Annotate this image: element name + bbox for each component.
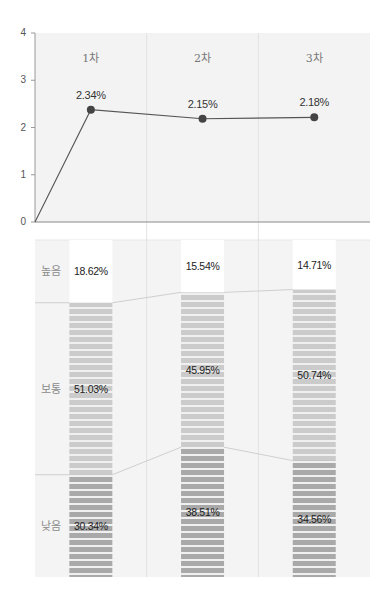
row-label: 높음 (41, 266, 61, 277)
data-point (310, 113, 318, 121)
y-tick-label: 0 (20, 217, 26, 227)
data-point (199, 115, 207, 123)
y-tick-label: 1 (20, 170, 26, 180)
y-tick-label: 4 (20, 28, 26, 38)
segment-value-label: 51.03% (74, 383, 108, 394)
segment-value-label: 50.74% (297, 370, 331, 381)
segment-value-label: 18.62% (74, 266, 108, 277)
segment-value-label: 38.51% (186, 507, 220, 518)
category-label: 1차 (82, 53, 99, 64)
category-label: 3차 (306, 53, 323, 64)
row-label: 보통 (41, 383, 61, 394)
data-point (87, 106, 95, 114)
y-tick-label: 2 (20, 123, 26, 133)
data-point-label: 2.15% (188, 98, 218, 109)
segment-value-label: 30.34% (74, 521, 108, 532)
segment-value-label: 14.71% (297, 260, 331, 271)
chart-canvas: 012341차2차3차2.34%2.15%2.18%18.62%높음51.03%… (0, 0, 389, 604)
segment-value-label: 45.95% (186, 365, 220, 376)
row-label: 낮음 (41, 520, 61, 531)
segment-value-label: 34.56% (297, 514, 331, 525)
data-point-label: 2.34% (76, 89, 106, 100)
category-label: 2차 (194, 53, 211, 64)
y-tick-label: 3 (20, 75, 26, 85)
data-point-label: 2.18% (299, 97, 329, 108)
segment-value-label: 15.54% (186, 261, 220, 272)
